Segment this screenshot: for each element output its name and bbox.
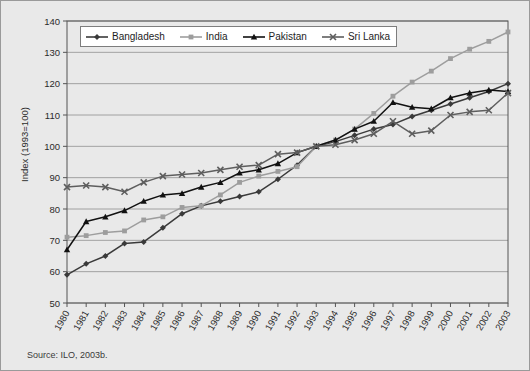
x-tick-label: 1999	[416, 309, 436, 333]
data-point-india-2001	[467, 47, 472, 52]
y-tick-label: 60	[49, 266, 60, 277]
data-point-india-1980	[65, 235, 70, 240]
x-tick-label: 1982	[90, 309, 110, 333]
data-point-india-1991	[276, 169, 281, 174]
y-axis-title: Index (1993=100)	[19, 75, 30, 215]
y-tick-label: 140	[44, 16, 60, 27]
cross-icon	[321, 31, 345, 43]
x-tick-label: 2002	[473, 309, 493, 333]
data-point-india-2002	[486, 39, 491, 44]
source-note: Source: ILO, 2003b.	[27, 350, 108, 360]
y-tick-label: 70	[49, 235, 60, 246]
data-point-india-1989	[237, 180, 242, 185]
legend-item-sri-lanka[interactable]: Sri Lanka	[321, 31, 390, 43]
y-tick-label: 80	[49, 204, 60, 215]
data-point-india-1988	[218, 193, 223, 198]
legend-label: Pakistan	[269, 31, 307, 42]
data-point-india-1981	[84, 233, 89, 238]
x-tick-label: 1987	[186, 309, 206, 333]
data-point-india-1999	[429, 69, 434, 74]
x-tick-label: 1980	[52, 309, 72, 333]
data-point-india-1986	[180, 205, 185, 210]
chart-legend: BangladeshIndiaPakistanSri Lanka	[80, 26, 397, 47]
x-tick-label: 1993	[301, 309, 321, 333]
x-tick-label: 1990	[243, 309, 263, 333]
legend-item-bangladesh[interactable]: Bangladesh	[85, 31, 165, 43]
y-tick-label: 130	[44, 47, 60, 58]
data-point-india-2000	[448, 56, 453, 61]
data-point-india-1992	[295, 164, 300, 169]
x-tick-label: 1986	[167, 309, 187, 333]
legend-label: India	[206, 31, 228, 42]
x-tick-label: 2001	[454, 309, 474, 333]
x-tick-label: 1983	[109, 309, 129, 333]
x-tick-label: 1989	[224, 309, 244, 333]
x-tick-label: 1992	[282, 309, 302, 333]
x-tick-label: 1996	[358, 309, 378, 333]
x-tick-label: 1998	[397, 309, 417, 333]
x-tick-label: 1985	[148, 309, 168, 333]
y-tick-label: 50	[49, 298, 60, 309]
y-tick-label: 110	[45, 110, 60, 121]
y-tick-label: 120	[44, 78, 60, 89]
x-tick-label: 2003	[493, 309, 513, 333]
data-point-india-1998	[410, 80, 415, 85]
data-point-india-1985	[160, 214, 165, 219]
data-point-india-2003	[506, 30, 511, 35]
x-tick-label: 1984	[128, 309, 148, 333]
data-point-india-1997	[391, 94, 396, 99]
line-chart-canvas: 5060708090100110120130140198019811982198…	[1, 1, 530, 371]
x-tick-label: 1988	[205, 309, 225, 333]
x-tick-label: 1994	[320, 309, 340, 333]
data-point-india-1983	[122, 229, 127, 234]
x-tick-label: 1995	[339, 309, 359, 333]
data-point-india-1987	[199, 203, 204, 208]
chart-figure: 5060708090100110120130140198019811982198…	[0, 0, 530, 371]
y-tick-label: 100	[44, 141, 60, 152]
legend-label: Sri Lanka	[348, 31, 390, 42]
x-tick-label: 1997	[378, 309, 398, 333]
y-tick-label: 90	[49, 172, 60, 183]
legend-item-pakistan[interactable]: Pakistan	[242, 31, 307, 43]
x-tick-label: 1991	[263, 309, 283, 333]
data-point-india-1990	[256, 174, 261, 179]
x-tick-label: 1981	[71, 309, 91, 333]
legend-item-india[interactable]: India	[179, 31, 228, 43]
x-tick-label: 2000	[435, 309, 455, 333]
square-icon	[179, 31, 203, 43]
plot-area	[67, 21, 508, 303]
triangle-icon	[242, 31, 266, 43]
data-point-india-1984	[141, 218, 146, 223]
data-point-india-1982	[103, 230, 108, 235]
diamond-icon	[85, 31, 109, 43]
legend-label: Bangladesh	[112, 31, 165, 42]
data-point-india-1996	[371, 111, 376, 116]
